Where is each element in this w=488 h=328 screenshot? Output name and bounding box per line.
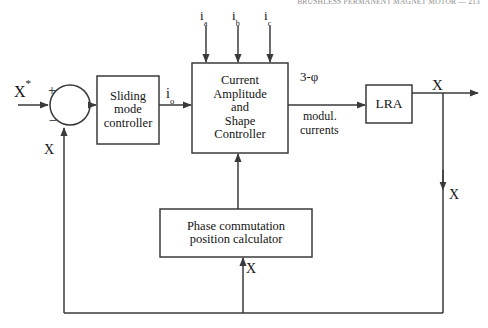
label-reference-input: X* <box>14 82 31 101</box>
smc-line-3: controller <box>104 117 153 131</box>
label-current-ic: ic <box>264 9 271 26</box>
casc-line-4: Shape <box>225 115 256 129</box>
current-ib-subscript: b <box>236 19 240 28</box>
casc-line-2: Amplitude <box>213 88 266 102</box>
label-sliding-mode-controller: Sliding mode controller <box>97 76 159 144</box>
label-feedback-x-inner: X <box>44 143 54 158</box>
smc-line-2: mode <box>114 103 142 117</box>
label-minus-sign: − <box>49 114 57 129</box>
block-diagram-page: BRUSHLESS PERMANENT MAGNET MOTOR — 213 <box>0 0 488 328</box>
label-current-amplitude-shape-controller: Current Amplitude and Shape Controller <box>192 63 288 153</box>
label-three-phase: 3-φ <box>300 70 318 84</box>
reference-input-base: X <box>14 83 26 100</box>
label-modulated-currents-line2: currents <box>300 124 339 137</box>
smc-line-1: Sliding <box>110 90 146 104</box>
current-io-subscript: o <box>170 96 174 106</box>
lra-line-1: LRA <box>376 97 403 112</box>
diagram-canvas <box>0 0 488 328</box>
casc-line-5: Controller <box>214 128 265 142</box>
casc-line-3: and <box>231 101 249 115</box>
label-current-ib: ib <box>232 9 240 26</box>
label-output-x-branch: X <box>449 188 459 203</box>
current-ia-subscript: a <box>204 19 208 28</box>
label-phase-commutation-position-calculator: Phase commutation position calculator <box>160 209 312 257</box>
casc-line-1: Current <box>221 74 259 88</box>
reference-input-star: * <box>26 77 31 89</box>
label-current-io: io <box>166 87 174 104</box>
label-position-feedback-x: X <box>246 262 256 277</box>
label-plus-sign: + <box>48 84 56 99</box>
pcpc-line-1: Phase commutation <box>187 220 285 234</box>
label-output-x: X <box>432 78 443 94</box>
pcpc-line-2: position calculator <box>190 233 283 247</box>
label-lra: LRA <box>366 85 412 123</box>
current-ic-subscript: c <box>268 19 272 28</box>
label-modulated-currents-line1: modul. <box>303 110 337 123</box>
label-current-ia: ia <box>200 9 207 26</box>
